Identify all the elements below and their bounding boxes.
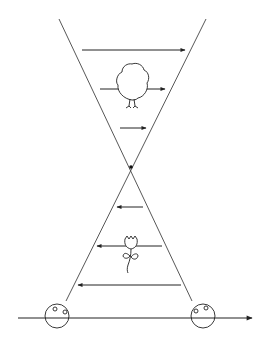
focal-point xyxy=(129,165,133,169)
eye-left-icon xyxy=(45,304,69,328)
figure-caption xyxy=(0,338,270,346)
optics-diagram xyxy=(0,0,270,346)
ray-line-left xyxy=(59,19,192,301)
tree-icon xyxy=(117,63,149,108)
flower-icon xyxy=(123,236,138,273)
eye-right-icon xyxy=(191,304,215,328)
